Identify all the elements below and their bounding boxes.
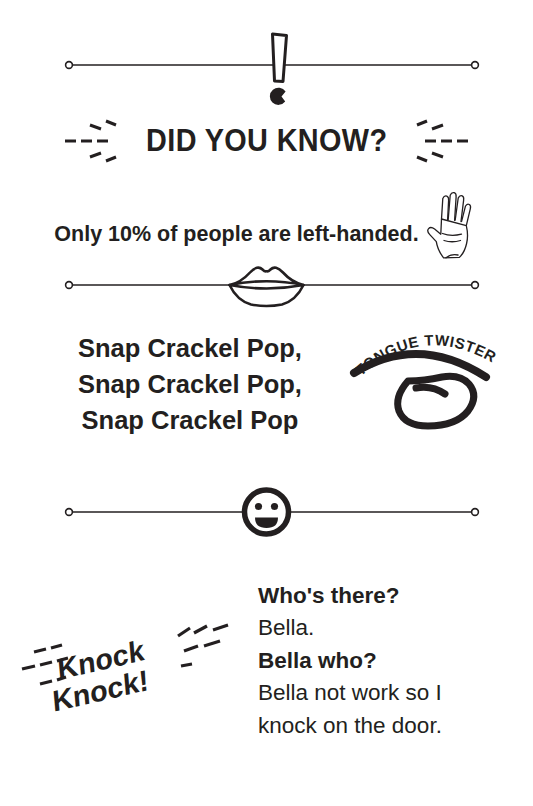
speed-lines-right-icon bbox=[178, 625, 228, 666]
divider-endpoint-right bbox=[472, 62, 479, 69]
divider-endpoint-left bbox=[66, 282, 73, 289]
divider-endpoint-right bbox=[472, 282, 479, 289]
divider-smiley bbox=[0, 478, 533, 558]
exclamation-mark-icon bbox=[270, 34, 287, 105]
smiley-eye-right bbox=[271, 503, 278, 510]
smiley-eye-left bbox=[255, 503, 262, 510]
divider-endpoint-right bbox=[472, 509, 479, 516]
did-you-know-heading-row: DID YOU KNOW? bbox=[0, 114, 533, 168]
knock-knock-joke: Who's there? Bella. Bella who? Bella not… bbox=[258, 580, 488, 742]
speed-lines-right-icon bbox=[410, 118, 470, 164]
divider-endpoint-left bbox=[66, 509, 73, 516]
speed-lines-left-icon bbox=[63, 118, 123, 164]
tongue-icon bbox=[398, 376, 474, 426]
joke-question-bella-who: Bella who? bbox=[258, 645, 488, 677]
divider-lips bbox=[0, 248, 533, 328]
fact-text: Only 10% of people are left-handed. bbox=[54, 222, 418, 247]
divider-exclamation bbox=[0, 25, 533, 105]
lips-icon bbox=[230, 268, 304, 306]
knock-knock-badge: Knock Knock! bbox=[18, 608, 258, 728]
tongue-twister-line: Snap Crackel Pop bbox=[40, 402, 340, 438]
smiley-face-icon bbox=[245, 490, 289, 534]
joke-question-who-there: Who's there? bbox=[258, 580, 488, 612]
tongue-twister-line: Snap Crackel Pop, bbox=[40, 330, 340, 366]
divider-endpoint-left bbox=[66, 62, 73, 69]
page-title: DID YOU KNOW? bbox=[133, 123, 400, 159]
joke-answer-bella: Bella. bbox=[258, 612, 488, 644]
tongue-twister-line: Snap Crackel Pop, bbox=[40, 366, 340, 402]
tongue-twister-lines: Snap Crackel Pop, Snap Crackel Pop, Snap… bbox=[40, 330, 340, 439]
page-root: DID YOU KNOW? Only 10% of people are lef… bbox=[0, 0, 533, 806]
tongue-twister-badge: TONGUE TWISTER bbox=[346, 325, 506, 435]
joke-punchline: Bella not work so I knock on the door. bbox=[258, 677, 488, 742]
